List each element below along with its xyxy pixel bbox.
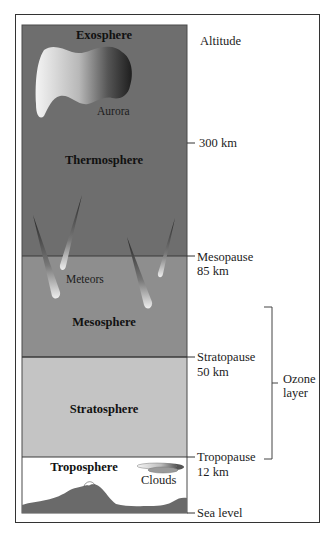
label-tropopause-altitude: 12 km bbox=[197, 465, 229, 479]
ozone-bracket bbox=[264, 307, 278, 459]
label-300km: 300 km bbox=[199, 136, 237, 150]
label-mesosphere: Mesosphere bbox=[72, 315, 136, 330]
label-mesopause-altitude: 85 km bbox=[197, 264, 229, 278]
label-meteors: Meteors bbox=[66, 272, 104, 286]
atmosphere-diagram bbox=[0, 0, 334, 534]
label-clouds: Clouds bbox=[141, 473, 176, 487]
label-mesopause: Mesopause bbox=[197, 250, 253, 264]
label-sea-level: Sea level bbox=[197, 506, 242, 520]
label-stratosphere: Stratosphere bbox=[70, 402, 139, 417]
label-exosphere: Exosphere bbox=[76, 28, 132, 43]
label-aurora: Aurora bbox=[97, 104, 130, 118]
label-troposphere: Troposphere bbox=[50, 460, 117, 475]
label-stratopause-altitude: 50 km bbox=[197, 365, 229, 379]
label-thermosphere: Thermosphere bbox=[65, 153, 143, 168]
axis-title-altitude: Altitude bbox=[200, 34, 241, 48]
label-ozone: Ozone bbox=[283, 372, 316, 386]
label-tropopause: Tropopause bbox=[197, 450, 256, 464]
label-stratopause: Stratopause bbox=[197, 350, 255, 364]
label-ozone-layer: layer bbox=[283, 386, 308, 400]
